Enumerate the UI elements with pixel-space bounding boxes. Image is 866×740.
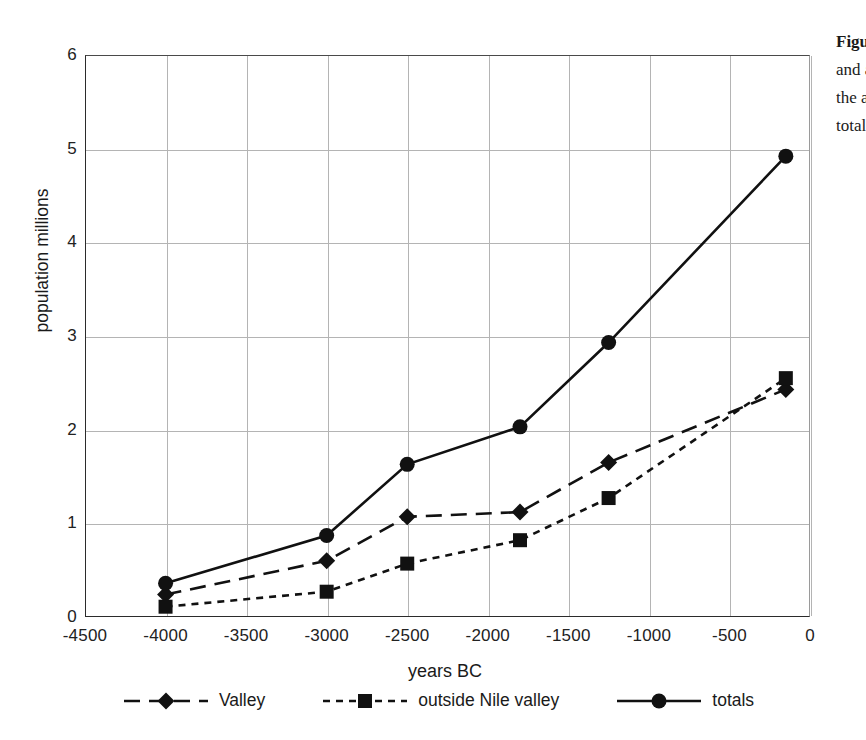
gridline-vertical [811, 56, 812, 616]
gridline-horizontal [86, 431, 809, 432]
caption-line-2: and adjacent regions, showing valley, [836, 56, 866, 84]
gridline-vertical [569, 56, 570, 616]
x-axis-ticks: -4500-4000-3500-3000-2500-2000-1500-1000… [0, 626, 866, 650]
gridline-vertical [489, 56, 490, 616]
legend-label: totals [712, 690, 754, 711]
caption-line-1: Figure 1 Estimated population of the Nil… [836, 28, 866, 56]
x-tick-label: -4000 [143, 626, 187, 646]
legend-swatch-diamond [122, 691, 210, 711]
side-caption: Figure 1 Estimated population of the Nil… [836, 28, 866, 140]
y-tick-label: 0 [37, 607, 77, 627]
x-tick-label: -4500 [63, 626, 107, 646]
caption-line-4: totals in millions. [836, 112, 866, 140]
legend-entry[interactable]: totals [615, 690, 754, 711]
y-tick-label: 1 [37, 513, 77, 533]
legend-label: outside Nile valley [418, 690, 559, 711]
gridline-vertical [408, 56, 409, 616]
caption-line-3: the area outside the Nile valley, and [836, 84, 866, 112]
x-tick-label: -3500 [224, 626, 268, 646]
x-tick-label: -500 [712, 626, 747, 646]
gridline-vertical [328, 56, 329, 616]
x-tick-label: -3000 [304, 626, 348, 646]
gridline-vertical [730, 56, 731, 616]
data-point-circle [652, 693, 667, 708]
x-tick-label: -1000 [627, 626, 671, 646]
legend-entry[interactable]: outside Nile valley [321, 690, 559, 711]
legend-swatch-square [321, 691, 409, 711]
gridline-horizontal [86, 150, 809, 151]
x-tick-label: -2500 [385, 626, 429, 646]
gridline-horizontal [86, 337, 809, 338]
x-tick-label: -1500 [546, 626, 590, 646]
x-tick-label: 0 [805, 626, 815, 646]
gridline-vertical [650, 56, 651, 616]
x-axis-label: years BC [0, 661, 866, 682]
figure-container: 0123456 -4500-4000-3500-3000-2500-2000-1… [0, 0, 866, 740]
legend-label: Valley [219, 690, 265, 711]
gridline-vertical [167, 56, 168, 616]
legend-swatch-circle [615, 691, 703, 711]
plot-area [85, 55, 810, 617]
x-tick-label: -2000 [466, 626, 510, 646]
legend-entry[interactable]: Valley [122, 690, 265, 711]
y-axis-label: population millions [32, 131, 53, 391]
chart-legend: Valleyoutside Nile valleytotals [0, 690, 866, 711]
gridline-horizontal [86, 524, 809, 525]
gridline-horizontal [86, 243, 809, 244]
y-tick-label: 6 [37, 45, 77, 65]
data-point-diamond [157, 692, 174, 709]
gridline-vertical [247, 56, 248, 616]
data-point-square [358, 694, 372, 708]
y-tick-label: 2 [37, 420, 77, 440]
